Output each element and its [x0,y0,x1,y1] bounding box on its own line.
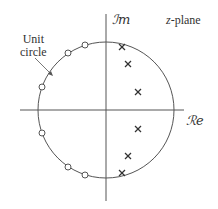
unit-circle-label-line2: circle [20,46,47,59]
pole-marker-icon [125,153,131,159]
pole-marker-icon [125,61,131,67]
real-axis-label: ℛe [186,114,204,127]
unit-circle-label: Unit circle [20,33,47,59]
zero-marker-icon [65,50,71,56]
imag-axis-label: ℐm [112,13,130,26]
zero-marker-icon [82,42,88,48]
zero-marker-icon [82,172,88,178]
zero-marker-icon [65,164,71,170]
zero-marker-icon [39,84,45,90]
pole-marker-icon [119,170,125,176]
unit-circle-pointer [35,58,52,75]
pole-marker-icon [119,44,125,50]
plane-label: z-plane [166,14,201,26]
plane-label-rest: -plane [171,13,201,27]
pole-marker-icon [135,126,141,132]
zero-marker-icon [39,130,45,136]
pole-marker-icon [135,89,141,95]
